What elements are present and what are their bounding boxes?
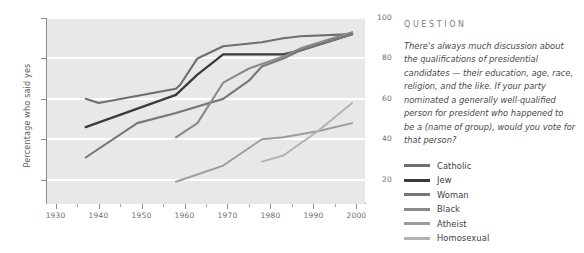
legend-swatch-black (404, 208, 430, 211)
legend-label-jew: Jew (437, 175, 452, 185)
x-tick-label-1990: 1990 (293, 211, 333, 220)
question-text: There's always much discussion about the… (404, 40, 576, 148)
x-tick-label-1980: 1980 (250, 211, 290, 220)
legend-label-homosexual: Homosexual (437, 233, 489, 243)
x-tick-label-1930: 1930 (36, 211, 76, 220)
legend-swatch-catholic (404, 164, 430, 167)
x-tick-mark-1990 (313, 204, 314, 209)
x-tick-label-1950: 1950 (122, 211, 162, 220)
x-tick-minor-1995 (335, 204, 336, 207)
question-heading: QUESTION (404, 20, 576, 29)
legend-item-woman[interactable]: Woman (404, 188, 576, 203)
series-line-woman (86, 34, 352, 157)
x-tick-mark-1940 (99, 204, 100, 209)
legend-swatch-atheist (404, 222, 430, 225)
legend-item-black[interactable]: Black (404, 202, 576, 217)
x-tick-minor-1955 (163, 204, 164, 207)
series-lines (47, 18, 365, 204)
x-tick-label-1940: 1940 (79, 211, 119, 220)
x-tick-label-1960: 1960 (165, 211, 205, 220)
y-axis-label: Percentage who said yes (23, 36, 32, 196)
legend-label-catholic: Catholic (437, 161, 471, 171)
legend-item-catholic[interactable]: Catholic (404, 159, 576, 174)
question-panel: QUESTION There's always much discussion … (404, 20, 576, 246)
series-line-atheist (176, 123, 352, 182)
x-tick-minor-1985 (292, 204, 293, 207)
x-tick-mark-1930 (56, 204, 57, 209)
x-tick-mark-1960 (185, 204, 186, 209)
x-tick-label-1970: 1970 (207, 211, 247, 220)
x-tick-mark-2000 (356, 204, 357, 209)
legend-swatch-woman (404, 193, 430, 196)
x-tick-mark-1980 (270, 204, 271, 209)
x-tick-label-2000: 2000 (336, 211, 376, 220)
legend-label-woman: Woman (437, 190, 469, 200)
x-tick-mark-1970 (227, 204, 228, 209)
x-tick-minor-1975 (249, 204, 250, 207)
x-tick-minor-1965 (206, 204, 207, 207)
line-chart: Percentage who said yes 20406080100 1930… (0, 0, 392, 253)
legend-label-black: Black (437, 204, 460, 214)
legend-item-atheist[interactable]: Atheist (404, 217, 576, 232)
x-tick-mark-1950 (142, 204, 143, 209)
series-line-black (176, 32, 352, 137)
legend-swatch-homosexual (404, 237, 430, 240)
x-tick-minor-1945 (120, 204, 121, 207)
legend-item-jew[interactable]: Jew (404, 173, 576, 188)
legend-item-homosexual[interactable]: Homosexual (404, 231, 576, 246)
legend-label-atheist: Atheist (437, 219, 467, 229)
chart-screenshot: Percentage who said yes 20406080100 1930… (0, 0, 584, 253)
legend-swatch-jew (404, 179, 430, 182)
chart-legend: CatholicJewWomanBlackAtheistHomosexual (404, 159, 576, 246)
plot-area (47, 18, 365, 204)
x-tick-minor-1935 (77, 204, 78, 207)
